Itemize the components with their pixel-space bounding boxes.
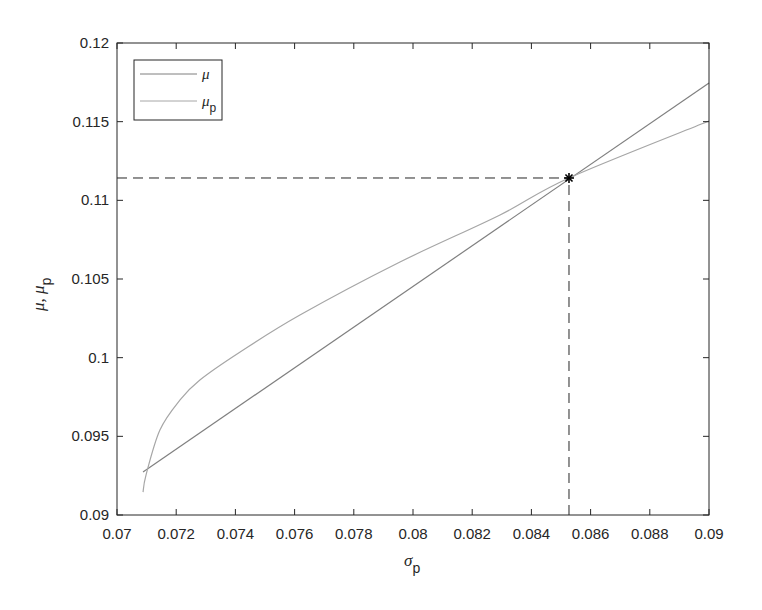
x-axis-label: σp [404, 551, 420, 576]
x-tick-label: 0.074 [217, 525, 255, 542]
x-tick-label: 0.086 [572, 525, 610, 542]
y-tick-label: 0.12 [80, 34, 109, 51]
y-tick-label: 0.095 [71, 427, 109, 444]
legend-label-mu: μ [201, 66, 210, 82]
legend: μ μp [134, 60, 222, 120]
annotation-layer [117, 173, 574, 515]
chart: 0.070.0720.0740.0760.0780.080.0820.0840.… [0, 0, 762, 610]
series-line-1 [143, 121, 709, 492]
x-tick-label: 0.076 [276, 525, 314, 542]
x-tick-label: 0.084 [513, 525, 551, 542]
y-tick-label: 0.105 [71, 270, 109, 287]
x-tick-label: 0.09 [694, 525, 723, 542]
series-layer [143, 83, 709, 492]
y-axis-label: μ, μp [29, 277, 54, 312]
y-tick-label: 0.11 [81, 191, 109, 208]
y-tick-label: 0.09 [80, 506, 109, 523]
x-tick-label: 0.088 [631, 525, 669, 542]
x-tick-label: 0.08 [398, 525, 427, 542]
y-tick-label: 0.1 [88, 349, 109, 366]
star-marker [564, 173, 574, 183]
x-tick-label: 0.082 [453, 525, 491, 542]
x-tick-label: 0.07 [102, 525, 131, 542]
x-tick-label: 0.078 [335, 525, 373, 542]
y-tick-label: 0.115 [73, 113, 109, 130]
x-tick-label: 0.072 [157, 525, 195, 542]
series-line-0 [143, 83, 709, 472]
